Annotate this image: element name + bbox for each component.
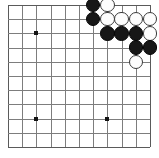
stone-black-2[interactable]	[86, 12, 100, 26]
star-point-center-lower	[105, 117, 109, 121]
grid-line-horizontal-11	[8, 147, 150, 148]
stone-black-6[interactable]	[129, 40, 143, 54]
stone-black-3[interactable]	[100, 26, 114, 40]
grid-line-horizontal-8	[8, 104, 150, 105]
stone-white-1[interactable]	[100, 0, 114, 12]
stone-black-7[interactable]	[143, 40, 157, 54]
star-point-left-upper	[34, 31, 38, 35]
grid-line-horizontal-9	[8, 119, 150, 120]
grid-line-horizontal-10	[8, 133, 150, 134]
stone-white-6[interactable]	[143, 26, 157, 40]
go-board-figure	[0, 0, 159, 158]
stone-black-4[interactable]	[114, 26, 128, 40]
grid-line-horizontal-6	[8, 76, 150, 77]
stone-white-4[interactable]	[129, 12, 143, 26]
stone-white-2[interactable]	[100, 12, 114, 26]
grid-line-horizontal-7	[8, 90, 150, 91]
stone-black-5[interactable]	[129, 26, 143, 40]
stone-white-3[interactable]	[114, 12, 128, 26]
grid-line-horizontal-1	[8, 5, 150, 6]
star-point-left-lower	[34, 117, 38, 121]
goban-grid[interactable]	[0, 0, 159, 158]
stone-white-7[interactable]	[129, 55, 143, 69]
stone-white-5[interactable]	[143, 12, 157, 26]
stone-black-1[interactable]	[86, 0, 100, 12]
